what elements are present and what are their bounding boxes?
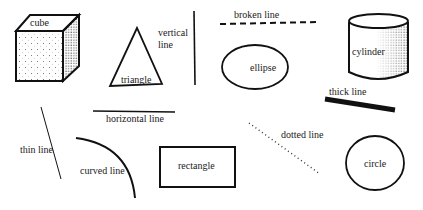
circle-label: circle: [364, 158, 386, 169]
vertical-line-label-2: line: [158, 39, 173, 50]
vertical-line: [194, 11, 195, 85]
rectangle-label: rectangle: [178, 160, 215, 171]
ellipse-label: ellipse: [250, 62, 276, 73]
thick-line-label: thick line: [329, 86, 367, 97]
thin-line-label: thin line: [20, 144, 53, 155]
broken-line-label: broken line: [234, 9, 279, 20]
cube-label: cube: [30, 17, 49, 28]
vertical-line-label-1: vertical: [158, 27, 188, 38]
curved-line-label: curved line: [80, 165, 125, 176]
triangle-label: triangle: [121, 74, 152, 85]
broken-line: [220, 22, 318, 24]
cylinder-label: cylinder: [352, 46, 385, 57]
thin-line: [41, 107, 61, 179]
shapes-canvas: [0, 0, 423, 210]
horizontal-line: [93, 111, 175, 112]
thick-line: [325, 99, 395, 110]
horizontal-line-label: horizontal line: [106, 113, 164, 124]
dotted-line-label: dotted line: [281, 129, 324, 140]
